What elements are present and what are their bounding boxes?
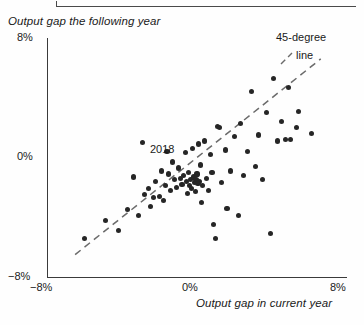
data-point xyxy=(194,171,199,176)
data-point xyxy=(163,183,168,188)
data-point xyxy=(268,231,273,236)
data-point xyxy=(148,204,153,209)
legend-label-line1: 45-degree xyxy=(276,31,326,43)
data-point xyxy=(217,125,222,130)
data-point xyxy=(260,177,265,182)
data-point xyxy=(228,168,233,173)
y-tick-label-top: 8% xyxy=(17,31,33,43)
y-tick-label-bottom: −8% xyxy=(8,270,30,282)
data-point xyxy=(309,131,314,136)
scatter-chart-figure: Output gap the following year 8% 0% −8% … xyxy=(0,0,364,325)
data-point xyxy=(159,168,164,173)
data-point xyxy=(241,173,246,178)
data-point xyxy=(142,192,147,197)
data-point xyxy=(153,179,158,184)
data-point xyxy=(208,152,213,157)
annotation-2018: 2018 xyxy=(150,143,174,155)
data-point xyxy=(125,207,130,212)
data-point xyxy=(170,159,175,164)
top-horizontal-rule xyxy=(56,6,356,7)
data-point xyxy=(223,147,228,152)
data-point xyxy=(204,176,209,181)
data-point xyxy=(146,186,151,191)
data-point xyxy=(140,140,145,145)
data-point xyxy=(196,141,201,146)
data-point xyxy=(131,174,136,179)
data-point xyxy=(264,110,269,115)
data-point xyxy=(238,121,243,126)
x-tick-label-left: −8% xyxy=(30,281,52,293)
data-point xyxy=(198,162,203,167)
data-point xyxy=(286,85,291,90)
data-point xyxy=(256,132,261,137)
data-point xyxy=(288,137,293,142)
data-point xyxy=(245,149,250,154)
data-point xyxy=(275,138,280,143)
data-point xyxy=(279,119,284,124)
data-point xyxy=(294,125,299,130)
x-tick-label-right: 8% xyxy=(330,281,346,293)
y-axis-line xyxy=(47,38,48,278)
x-tick-label-mid: 0% xyxy=(182,281,198,293)
y-tick-label-mid: 0% xyxy=(17,150,33,162)
data-point xyxy=(202,138,207,143)
data-point xyxy=(219,180,224,185)
data-point xyxy=(190,146,195,151)
forty-five-degree-dashed-line xyxy=(75,59,321,255)
legend-pointer-line xyxy=(281,53,292,64)
data-point xyxy=(271,76,276,81)
data-point xyxy=(236,213,241,218)
data-point xyxy=(193,189,198,194)
data-point xyxy=(200,183,205,188)
data-point xyxy=(176,165,181,170)
data-point xyxy=(199,200,204,205)
data-point xyxy=(195,181,200,186)
data-point xyxy=(151,195,156,200)
data-point xyxy=(161,198,166,203)
legend-label-line2: line xyxy=(296,49,313,61)
data-point xyxy=(103,218,108,223)
data-point xyxy=(166,171,171,176)
data-point xyxy=(185,191,190,196)
y-axis-title: Output gap the following year xyxy=(8,15,161,27)
data-point xyxy=(136,213,141,218)
x-axis-title: Output gap in current year xyxy=(196,297,332,309)
data-point xyxy=(253,164,258,169)
data-point xyxy=(82,236,87,241)
data-point xyxy=(209,170,214,175)
x-axis-line xyxy=(47,277,347,278)
data-point xyxy=(183,150,188,155)
data-point xyxy=(206,188,211,193)
data-point xyxy=(174,185,179,190)
data-point xyxy=(211,222,216,227)
data-point xyxy=(224,206,229,211)
data-point xyxy=(168,188,173,193)
data-point xyxy=(172,177,177,182)
data-point xyxy=(116,228,121,233)
data-point xyxy=(296,109,301,114)
data-point xyxy=(249,89,254,94)
data-point xyxy=(283,137,288,142)
data-point xyxy=(213,236,218,241)
data-point xyxy=(232,134,237,139)
